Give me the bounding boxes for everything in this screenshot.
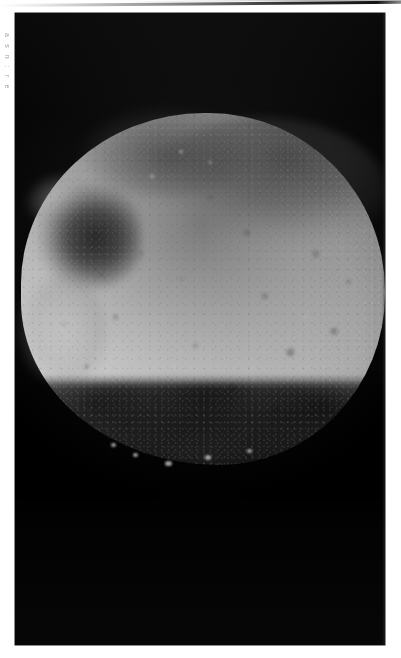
margin-caption-text: a s n : r e <box>4 33 11 91</box>
dark-terrain-band-icon <box>145 117 385 272</box>
photograph-plate <box>15 13 385 645</box>
film-grain-overlay <box>21 113 385 465</box>
crater-speckle-dark <box>21 113 385 465</box>
bright-limb-lobe-left <box>15 275 105 391</box>
moon-disc <box>21 113 385 465</box>
large-shadowed-crater-upper-left <box>32 183 141 289</box>
margin-caption: a s n : r e <box>1 8 13 116</box>
debris-speck <box>111 443 116 447</box>
plate-edge-right <box>382 13 385 645</box>
scan-artifact-line <box>0 1 401 7</box>
dark-terrain-band-secondary-icon <box>79 106 254 198</box>
scanned-page: a s n : r e <box>0 0 401 658</box>
ragged-terminator-bottom <box>15 381 385 501</box>
bright-crater-rim-upper-left <box>25 173 105 233</box>
debris-speck <box>165 461 172 466</box>
debris-speck <box>133 453 138 457</box>
crater-speckle-light <box>21 113 385 465</box>
